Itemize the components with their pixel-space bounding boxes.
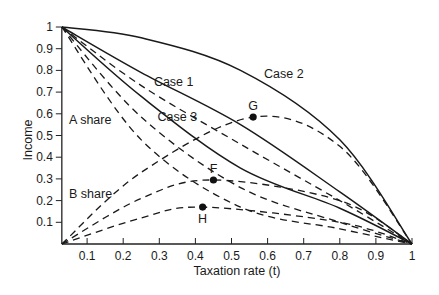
income-vs-taxation-chart: 0.10.20.30.40.50.60.70.80.910.10.20.30.4… xyxy=(0,0,439,295)
point-label-g: G xyxy=(248,99,258,113)
x-tick-label: 0.6 xyxy=(259,249,276,263)
y-axis-title: Income xyxy=(21,119,35,160)
y-tick-label: 0.1 xyxy=(36,215,53,229)
point-h xyxy=(199,204,206,211)
label-case-3: Case 3 xyxy=(157,110,197,124)
label-a-share: A share xyxy=(69,113,111,127)
x-tick-label: 0.5 xyxy=(223,249,240,263)
curve-b-share-case-2 xyxy=(62,116,412,244)
point-g xyxy=(250,113,257,120)
chart-canvas: 0.10.20.30.40.50.60.70.80.910.10.20.30.4… xyxy=(0,0,439,295)
y-tick-label: 0.4 xyxy=(36,150,53,164)
x-tick-label: 0.4 xyxy=(187,249,204,263)
y-tick-label: 0.9 xyxy=(36,42,53,56)
x-tick-label: 0.9 xyxy=(368,249,385,263)
curves xyxy=(62,27,412,244)
y-tick-label: 0.6 xyxy=(36,107,53,121)
y-tick-label: 0.8 xyxy=(36,63,53,77)
x-tick-label: 0.8 xyxy=(331,249,348,263)
x-tick-label: 1 xyxy=(409,249,416,263)
y-tick-label: 0.2 xyxy=(36,194,53,208)
label-case-2: Case 2 xyxy=(264,67,304,81)
x-tick-label: 0.3 xyxy=(151,249,168,263)
y-tick-label: 0.3 xyxy=(36,172,53,186)
x-tick-label: 0.2 xyxy=(115,249,132,263)
label-case-1: Case 1 xyxy=(154,75,194,89)
y-tick-label: 0.7 xyxy=(36,85,53,99)
point-f xyxy=(210,176,217,183)
y-tick-label: 1 xyxy=(46,20,53,34)
y-tick-label: 0.5 xyxy=(36,129,53,143)
x-tick-label: 0.7 xyxy=(295,249,312,263)
x-axis-title: Taxation rate (t) xyxy=(194,264,281,278)
point-label-h: H xyxy=(198,212,207,226)
point-label-f: F xyxy=(210,162,218,176)
x-tick-label: 0.1 xyxy=(79,249,96,263)
label-b-share: B share xyxy=(69,187,112,201)
